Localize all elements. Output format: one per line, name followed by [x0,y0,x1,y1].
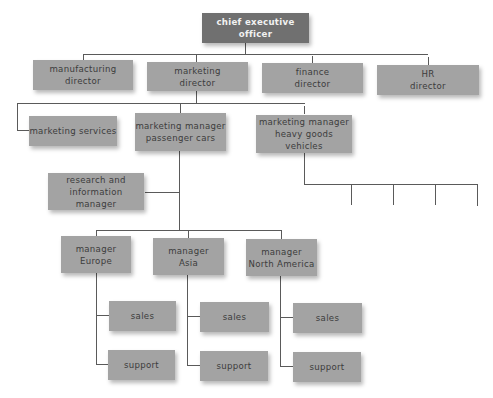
mm-passenger-cars-box: marketing manager passenger cars [135,113,226,151]
connector [96,230,282,231]
support-north-america-box: support [293,352,361,382]
connector [187,365,200,366]
connector [196,54,197,62]
marketing-services-box: marketing services [29,116,117,146]
support-europe-box: support [108,350,175,380]
director-manufacturing: manufacturing director [33,60,133,90]
connector [280,275,281,367]
connector [179,151,180,230]
connector [83,54,428,55]
manager-asia-box: manager Asia [153,238,224,275]
connector [304,153,305,185]
connector [281,231,282,239]
research-manager-box: research and information manager [48,173,144,210]
sales-asia-box: sales [200,302,269,332]
connector [477,184,478,206]
connector [187,274,188,366]
connector [393,184,394,205]
connector [428,57,429,65]
sales-north-america-box: sales [293,303,362,333]
sales-europe-box: sales [109,301,176,331]
connector [17,103,305,104]
connector [280,366,294,367]
connector [180,103,181,113]
connector [145,192,179,193]
connector [351,184,352,205]
connector [280,317,294,318]
connector [435,184,436,205]
connector [96,273,97,365]
connector [17,103,18,131]
connector [304,106,305,114]
director-marketing: marketing director [147,62,248,91]
connector [96,315,109,316]
mm-heavy-goods-box: marketing manager heavy goods vehicles [256,115,352,153]
connector [187,316,200,317]
director-finance: finance director [262,63,363,93]
director-hr: HR director [377,65,479,95]
connector [188,230,189,238]
manager-europe-box: manager Europe [61,236,131,273]
connector [304,184,478,185]
manager-north-america-box: manager North America [246,239,317,276]
support-asia-box: support [200,351,268,381]
ceo-box: chief executive officer [202,13,309,43]
